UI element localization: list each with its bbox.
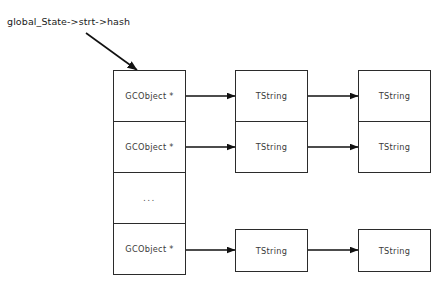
tstring-label: TString [379,246,411,256]
tstring-label: TString [256,142,288,152]
diagram-canvas: global_State->strt->hash GCObject * GC [0,0,444,283]
tstring-label: TString [379,142,411,152]
hash-cell-0[interactable]: GCObject * [113,70,186,122]
tstring-node-chain2-1[interactable]: TString [358,229,431,272]
tstring-node-chain1-1[interactable]: TString [358,122,431,173]
hash-cell-2-ellipsis: ... [113,173,186,224]
hash-cell-label: GCObject * [125,142,173,152]
tstring-label: TString [256,91,288,101]
hash-cell-label: GCObject * [125,244,173,254]
tstring-node-chain2-0[interactable]: TString [235,229,308,272]
hash-cell-label: GCObject * [125,91,173,101]
root-pointer-arrow [86,33,137,70]
root-pointer-label: global_State->strt->hash [7,16,130,27]
hash-cell-3[interactable]: GCObject * [113,224,186,275]
ellipsis-label: ... [143,193,156,203]
tstring-label: TString [379,91,411,101]
hash-cell-1[interactable]: GCObject * [113,122,186,173]
tstring-label: TString [256,246,288,256]
tstring-node-chain0-0[interactable]: TString [235,70,308,122]
tstring-node-chain1-0[interactable]: TString [235,122,308,173]
tstring-node-chain0-1[interactable]: TString [358,70,431,122]
